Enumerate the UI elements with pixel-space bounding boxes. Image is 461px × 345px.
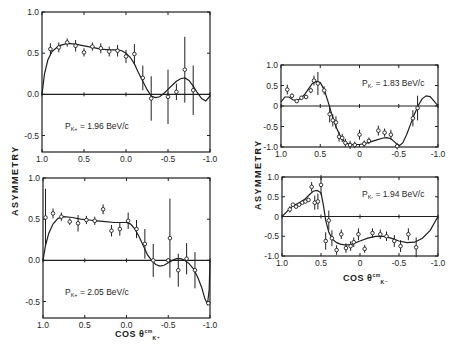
x-tick-label: 0.5 bbox=[314, 149, 326, 159]
data-point bbox=[82, 51, 86, 55]
momentum-label: PK- = 1.94 BeV/c bbox=[362, 189, 425, 200]
x-tick-label: 0.5 bbox=[315, 258, 327, 268]
data-point bbox=[335, 248, 339, 252]
left-y-axis-label: ASYMMETRY bbox=[10, 145, 20, 216]
data-point bbox=[76, 221, 80, 225]
momentum-label: PK- = 1.83 BeV/c bbox=[362, 78, 425, 89]
x-tick-label: 0.0 bbox=[120, 154, 132, 164]
x-tick-label: 0 bbox=[358, 258, 363, 268]
panel-205: 1.00.50.0-0.5-1.01.00.50.0-0.5PK+ = 2.05… bbox=[25, 173, 217, 330]
data-point bbox=[348, 143, 352, 147]
data-point bbox=[309, 89, 313, 93]
data-point bbox=[378, 232, 382, 236]
data-point bbox=[91, 45, 95, 49]
x-tick-label: -0.5 bbox=[161, 320, 176, 330]
data-point bbox=[285, 88, 289, 92]
y-tick-label: 1.0 bbox=[28, 173, 40, 183]
data-point bbox=[407, 232, 411, 236]
data-point bbox=[93, 219, 97, 223]
data-point bbox=[334, 121, 338, 125]
data-point bbox=[107, 50, 111, 54]
data-point bbox=[316, 82, 320, 86]
momentum-label: PK+ = 2.05 BeV/c bbox=[65, 287, 130, 298]
data-point bbox=[399, 244, 403, 248]
data-point bbox=[143, 242, 147, 246]
data-point bbox=[330, 236, 334, 240]
data-point bbox=[385, 234, 389, 238]
data-point bbox=[304, 95, 308, 99]
data-point bbox=[353, 143, 357, 147]
data-point bbox=[176, 268, 180, 272]
data-point bbox=[344, 246, 348, 250]
y-tick-label: -0.5 bbox=[25, 297, 40, 307]
data-point bbox=[116, 49, 120, 53]
y-tick-label: -0.5 bbox=[24, 131, 39, 141]
data-point bbox=[133, 52, 137, 56]
data-point bbox=[411, 117, 415, 121]
y-tick-label: -0.5 bbox=[263, 122, 278, 132]
data-point bbox=[316, 200, 320, 204]
data-point bbox=[175, 90, 179, 94]
y-tick-label: 0.0 bbox=[28, 255, 40, 265]
data-point bbox=[168, 236, 172, 240]
data-point bbox=[367, 139, 371, 143]
data-point bbox=[99, 46, 103, 50]
left-x-axis-label: COS θcmK⁺ bbox=[115, 328, 160, 341]
right-x-axis-label: COS θcmK⁻ bbox=[343, 272, 388, 285]
data-point bbox=[310, 185, 314, 189]
data-point bbox=[65, 41, 69, 45]
data-point bbox=[295, 99, 299, 103]
data-point bbox=[288, 208, 292, 212]
data-point bbox=[328, 112, 332, 116]
x-tick-label: 0 bbox=[357, 149, 362, 159]
x-tick-label: -0.5 bbox=[392, 258, 407, 268]
y-tick-label: 0.5 bbox=[27, 48, 39, 58]
x-tick-label: -1.0 bbox=[203, 154, 218, 164]
data-point bbox=[357, 232, 361, 236]
x-tick-label: 0.5 bbox=[78, 154, 90, 164]
data-point bbox=[290, 94, 294, 98]
data-point bbox=[44, 216, 48, 220]
data-point bbox=[349, 244, 353, 248]
data-point bbox=[149, 97, 153, 101]
y-tick-label: -1.0 bbox=[263, 142, 278, 152]
y-tick-label: 0.0 bbox=[27, 89, 39, 99]
y-tick-label: 0.5 bbox=[28, 214, 40, 224]
data-point bbox=[51, 212, 55, 216]
panel-183: 1.00.50-0.5-1.01.00.50-0.5-1.0PK- = 1.83… bbox=[263, 60, 445, 159]
data-point bbox=[312, 79, 316, 83]
data-point bbox=[185, 257, 189, 261]
data-point bbox=[414, 246, 418, 250]
data-point bbox=[126, 219, 130, 223]
data-point bbox=[371, 231, 375, 235]
data-point bbox=[319, 183, 323, 187]
data-point bbox=[416, 106, 420, 110]
data-point bbox=[151, 259, 155, 263]
data-point bbox=[101, 207, 105, 211]
data-point bbox=[57, 46, 61, 50]
data-point bbox=[300, 96, 304, 100]
data-point bbox=[327, 219, 331, 223]
data-point bbox=[191, 88, 195, 92]
data-point bbox=[141, 76, 145, 80]
data-point bbox=[324, 239, 328, 243]
data-point bbox=[383, 131, 387, 135]
y-tick-label: 1.0 bbox=[267, 172, 279, 182]
data-point bbox=[110, 229, 114, 233]
data-point bbox=[85, 218, 89, 222]
x-tick-label: -1.0 bbox=[431, 149, 446, 159]
x-tick-label: -0.5 bbox=[161, 154, 176, 164]
data-point bbox=[135, 227, 139, 231]
y-tick-label: 0 bbox=[273, 101, 278, 111]
data-point bbox=[193, 268, 197, 272]
data-point bbox=[183, 68, 187, 72]
data-point bbox=[166, 95, 170, 99]
data-point bbox=[339, 232, 343, 236]
plot-frame bbox=[43, 178, 210, 318]
data-point bbox=[344, 141, 348, 145]
panel-194: 1.00.50-0.5-1.01.00.50-0.5-1.0PK- = 1.94… bbox=[264, 172, 445, 268]
y-tick-label: 0.5 bbox=[266, 81, 278, 91]
data-point bbox=[68, 220, 72, 224]
chart-canvas: 1.00.50.0-0.5-1.01.00.50.0-0.5PK+ = 1.96… bbox=[0, 0, 461, 345]
data-point bbox=[358, 133, 362, 137]
